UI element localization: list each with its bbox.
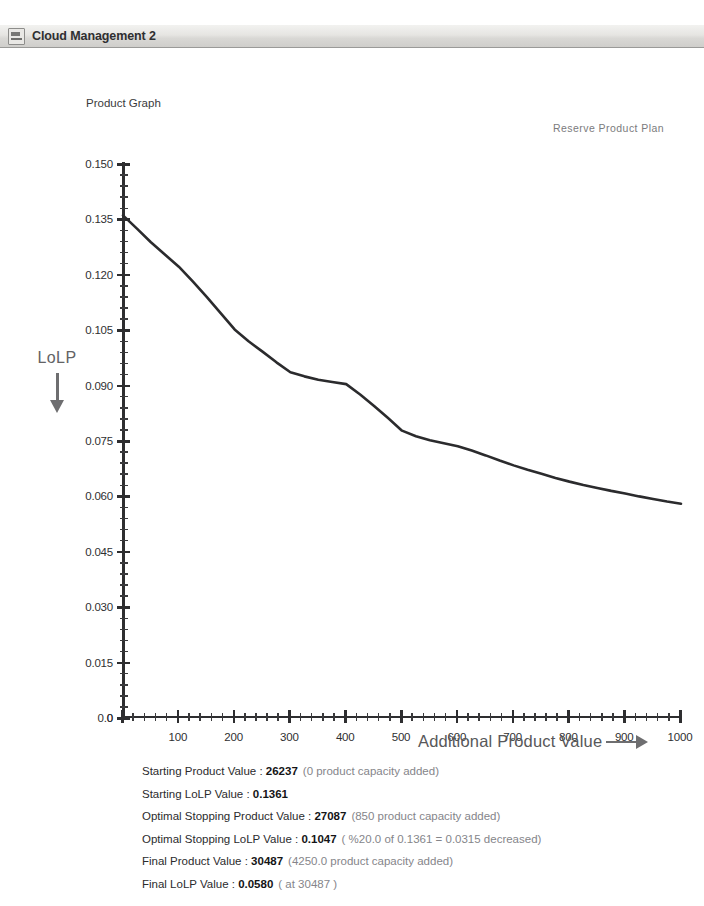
- summary-row-value: 30487: [251, 855, 283, 867]
- summary-row-note: (4250.0 product capacity added): [288, 855, 453, 867]
- title-bar-filler: [156, 25, 704, 47]
- summary-block: Starting Product Value : 26237(0 product…: [142, 761, 682, 896]
- summary-row: Optimal Stopping Product Value : 27087(8…: [142, 806, 682, 826]
- summary-row-value: 26237: [266, 765, 298, 777]
- y-axis-label: LoLP: [22, 349, 92, 367]
- y-tick-label: 0.090: [85, 380, 113, 392]
- x-tick-label: 500: [392, 731, 411, 743]
- x-tick-label: 1000: [668, 731, 693, 743]
- y-tick-label: 0.045: [85, 546, 113, 558]
- summary-row-value: 0.1047: [301, 833, 336, 845]
- y-tick-label: 0.105: [85, 324, 113, 336]
- x-axis-title-text: Additional Product Value: [418, 732, 602, 751]
- y-tick-label: 0.030: [85, 601, 113, 613]
- summary-row: Final Product Value : 30487(4250.0 produ…: [142, 851, 682, 871]
- summary-row-label: Optimal Stopping Product Value :: [142, 810, 314, 822]
- summary-row-value: 27087: [314, 810, 346, 822]
- summary-row-note: (0 product capacity added): [303, 765, 439, 777]
- summary-row-note: ( at 30487 ): [278, 878, 337, 890]
- summary-row: Final LoLP Value : 0.0580( at 30487 ): [142, 874, 682, 894]
- down-arrow-icon: [22, 373, 92, 415]
- summary-row-note: ( %20.0 of 0.1361 = 0.0315 decreased): [342, 833, 542, 845]
- chart-panel: Product Graph Reserve Product Plan LoLP …: [0, 49, 704, 906]
- series-line-lolp: [122, 162, 680, 718]
- window-title-bar: Cloud Management 2: [0, 25, 704, 48]
- y-tick-label: 0.015: [85, 657, 113, 669]
- y-tick-label: 0.075: [85, 435, 113, 447]
- y-tick-label: 0.060: [85, 490, 113, 502]
- x-tick-label-zero: 0: [107, 712, 113, 724]
- graph-title: Product Graph: [86, 97, 161, 109]
- summary-row-label: Final LoLP Value :: [142, 878, 238, 890]
- plot-area: 0.00.0150.0300.0450.0600.0750.0900.1050.…: [122, 164, 680, 718]
- summary-row-value: 0.0580: [238, 878, 273, 890]
- summary-row-label: Starting LoLP Value :: [142, 788, 253, 800]
- reserve-plan-label: Reserve Product Plan: [553, 122, 664, 134]
- x-tick-label: 300: [280, 731, 299, 743]
- summary-row: Optimal Stopping LoLP Value : 0.1047( %2…: [142, 829, 682, 849]
- y-axis-annotation: LoLP: [22, 349, 92, 415]
- x-tick-label: 400: [336, 731, 355, 743]
- x-axis-title: Additional Product Value: [418, 732, 648, 751]
- y-tick-label: 0.120: [85, 269, 113, 281]
- summary-row: Starting LoLP Value : 0.1361: [142, 784, 682, 804]
- summary-row-label: Starting Product Value :: [142, 765, 266, 777]
- summary-row: Starting Product Value : 26237(0 product…: [142, 761, 682, 781]
- summary-row-label: Final Product Value :: [142, 855, 251, 867]
- summary-row-note: (850 product capacity added): [351, 810, 500, 822]
- summary-row-value: 0.1361: [253, 788, 288, 800]
- window-title: Cloud Management 2: [32, 29, 156, 43]
- x-tick-label: 100: [169, 731, 188, 743]
- app-window-icon: [8, 28, 25, 45]
- y-tick-label: 0.150: [85, 158, 113, 170]
- x-tick-label: 200: [224, 731, 243, 743]
- summary-row-label: Optimal Stopping LoLP Value :: [142, 833, 301, 845]
- right-arrow-icon: [606, 735, 648, 749]
- y-tick-label: 0.135: [85, 213, 113, 225]
